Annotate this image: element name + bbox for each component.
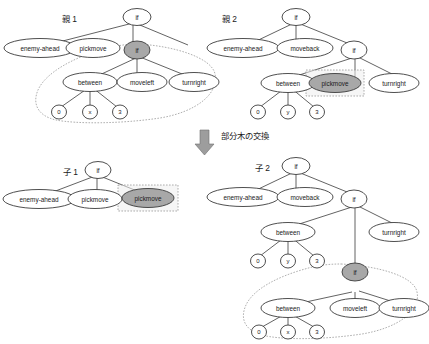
- node-turnright-grafted[interactable]: turnright: [379, 299, 429, 318]
- node-between[interactable]: between: [63, 73, 117, 92]
- caption-child1: 子 1: [63, 167, 78, 177]
- node-between[interactable]: between: [261, 223, 315, 242]
- node-label: if: [96, 167, 99, 174]
- down-arrow-icon: [195, 130, 214, 155]
- node-turnright[interactable]: turnright: [169, 73, 219, 92]
- node-leaf-x[interactable]: x: [83, 105, 98, 119]
- node-label: between: [78, 79, 103, 86]
- node-label: y: [287, 109, 290, 115]
- node-label: enemy-ahead: [223, 45, 263, 53]
- node-label: turnright: [182, 79, 206, 87]
- node-pickmove-highlighted[interactable]: pickmove: [309, 74, 361, 93]
- node-label: between: [276, 229, 301, 236]
- node-if-inner[interactable]: if: [341, 41, 367, 59]
- node-label: turnright: [392, 305, 416, 313]
- node-pickmove[interactable]: pickmove: [68, 190, 122, 209]
- node-if-highlighted[interactable]: if: [124, 41, 150, 59]
- node-if-root[interactable]: if: [123, 9, 151, 26]
- caption-parent1: 親 1: [62, 14, 77, 24]
- node-label: pickmove: [82, 196, 109, 204]
- node-moveback[interactable]: moveback: [277, 39, 333, 58]
- tree-parent1: if enemy-ahead pickmove if between movel…: [4, 9, 219, 123]
- node-if-root[interactable]: if: [282, 158, 310, 175]
- node-label: moveback: [290, 45, 320, 52]
- node-label: turnright: [382, 80, 406, 88]
- node-enemy-ahead[interactable]: enemy-ahead: [207, 39, 279, 58]
- node-leaf-3-grafted[interactable]: 3: [310, 325, 325, 339]
- node-label: turnright: [382, 229, 406, 237]
- node-label: if: [352, 47, 355, 54]
- node-label: enemy-ahead: [20, 45, 60, 53]
- node-leaf-0-grafted[interactable]: 0: [252, 325, 267, 339]
- node-leaf-x-grafted[interactable]: x: [281, 325, 296, 339]
- node-label: x: [287, 329, 290, 335]
- node-enemy-ahead[interactable]: enemy-ahead: [4, 39, 76, 58]
- node-turnright[interactable]: turnright: [369, 223, 419, 242]
- node-turnright[interactable]: turnright: [369, 74, 419, 93]
- node-leaf-3[interactable]: 3: [310, 105, 325, 119]
- exchange-caption: 部分木の交換: [221, 131, 270, 141]
- node-label: between: [276, 305, 301, 312]
- node-leaf-0[interactable]: 0: [251, 105, 266, 119]
- node-label: between: [276, 80, 301, 87]
- node-if-inner[interactable]: if: [341, 190, 367, 208]
- node-label: if: [294, 14, 297, 21]
- node-label: if: [294, 163, 297, 170]
- node-enemy-ahead[interactable]: enemy-ahead: [207, 188, 279, 207]
- node-moveleft-grafted[interactable]: moveleft: [330, 299, 380, 318]
- node-between[interactable]: between: [261, 74, 315, 93]
- node-label: pickmove: [135, 195, 162, 203]
- node-moveback[interactable]: moveback: [277, 188, 333, 207]
- node-leaf-0[interactable]: 0: [251, 254, 266, 268]
- tree-parent2: if enemy-ahead moveback if between pickm…: [207, 9, 419, 120]
- node-leaf-y[interactable]: y: [281, 105, 296, 119]
- node-leaf-3[interactable]: 3: [310, 254, 325, 268]
- node-label: moveback: [290, 194, 320, 201]
- node-label: pickmove: [322, 80, 349, 88]
- node-label: if: [135, 47, 138, 54]
- caption-child2: 子 2: [255, 163, 270, 173]
- node-label: moveleft: [130, 79, 154, 86]
- node-label: x: [89, 109, 92, 115]
- node-pickmove[interactable]: pickmove: [66, 39, 120, 58]
- caption-parent2: 親 2: [222, 14, 237, 24]
- tree-child1: if enemy-ahead pickmove pickmove 子 1: [3, 162, 178, 212]
- node-leaf-0[interactable]: 0: [52, 105, 67, 119]
- node-enemy-ahead[interactable]: enemy-ahead: [3, 190, 75, 209]
- node-if-root[interactable]: if: [85, 162, 111, 179]
- node-label: enemy-ahead: [223, 194, 263, 202]
- figure-canvas: if enemy-ahead pickmove if between movel…: [0, 0, 429, 344]
- node-label: if: [353, 269, 356, 276]
- node-if-grafted-highlighted[interactable]: if: [342, 263, 368, 281]
- node-between-grafted[interactable]: between: [261, 299, 315, 318]
- node-label: if: [352, 196, 355, 203]
- node-label: if: [135, 14, 138, 21]
- node-label: y: [287, 258, 290, 264]
- node-if-root[interactable]: if: [282, 9, 310, 26]
- node-moveleft[interactable]: moveleft: [117, 73, 167, 92]
- node-label: enemy-ahead: [19, 196, 59, 204]
- node-label: moveleft: [343, 305, 367, 312]
- node-label: pickmove: [80, 45, 107, 53]
- node-leaf-3[interactable]: 3: [113, 105, 128, 119]
- node-pickmove-highlighted[interactable]: pickmove: [122, 189, 174, 208]
- tree-child2: if enemy-ahead moveback if between turnr…: [207, 158, 429, 340]
- node-leaf-y[interactable]: y: [281, 254, 296, 268]
